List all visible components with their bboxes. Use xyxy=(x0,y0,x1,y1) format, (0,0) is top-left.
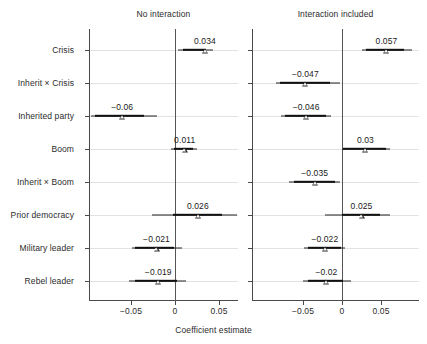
y-axis-label-inherit-crisis: Inherit × Crisis xyxy=(18,78,74,88)
gridline xyxy=(89,50,238,51)
y-axis-tick xyxy=(248,149,252,150)
point-estimate-marker xyxy=(154,247,160,252)
plot-area-interaction-included: 0.057−0.047−0.0460.03−0.0350.025−0.022−0… xyxy=(252,29,419,301)
panel-no-interaction: 0.034−0.060.0110.026−0.021−0.019 xyxy=(89,29,238,301)
gridline xyxy=(252,149,419,150)
point-estimate-value-label: −0.021 xyxy=(143,234,170,244)
point-estimate-marker xyxy=(202,49,208,54)
y-axis-tick xyxy=(248,281,252,282)
zero-reference-line xyxy=(175,29,176,301)
point-estimate-marker xyxy=(119,115,125,120)
y-axis-tick xyxy=(248,182,252,183)
x-axis-tick xyxy=(381,301,382,305)
y-axis-labels: CrisisInherit × CrisisInherited partyBoo… xyxy=(0,0,81,344)
x-axis-tick-label: 0.05 xyxy=(211,306,228,316)
point-estimate-value-label: 0.025 xyxy=(351,201,373,211)
y-axis-label-prior-democracy: Prior democracy xyxy=(11,210,74,220)
point-estimate-value-label: −0.022 xyxy=(311,234,338,244)
y-axis-tick xyxy=(85,83,89,84)
x-axis-spine xyxy=(89,300,238,301)
y-axis-tick xyxy=(248,83,252,84)
y-axis-tick xyxy=(85,182,89,183)
point-estimate-marker xyxy=(362,148,368,153)
x-axis-spine xyxy=(252,300,419,301)
point-estimate-value-label: −0.035 xyxy=(301,168,328,178)
zero-reference-line xyxy=(342,29,343,301)
point-estimate-marker xyxy=(312,181,318,186)
point-estimate-value-label: 0.034 xyxy=(194,36,216,46)
y-axis-tick xyxy=(248,116,252,117)
x-axis-tick-label: −0.05 xyxy=(292,306,314,316)
point-estimate-value-label: −0.06 xyxy=(111,102,133,112)
x-axis-tick xyxy=(219,301,220,305)
x-axis-tick-label: 0 xyxy=(173,306,178,316)
point-estimate-value-label: 0.026 xyxy=(187,201,209,211)
y-axis-tick xyxy=(85,116,89,117)
point-estimate-marker xyxy=(182,148,188,153)
y-axis-spine xyxy=(252,29,253,301)
x-axis-tick-label: −0.05 xyxy=(120,306,142,316)
y-axis-tick xyxy=(85,215,89,216)
x-axis-tick xyxy=(175,301,176,305)
y-axis-label-inherited-party: Inherited party xyxy=(18,111,74,121)
panel-title-interaction-included: Interaction included xyxy=(252,9,419,19)
y-axis-label-boom: Boom xyxy=(51,144,74,154)
point-estimate-value-label: −0.02 xyxy=(315,267,337,277)
point-estimate-value-label: 0.011 xyxy=(174,135,195,145)
point-estimate-value-label: −0.047 xyxy=(292,69,319,79)
y-axis-tick xyxy=(248,215,252,216)
panel-interaction-included: 0.057−0.047−0.0460.03−0.0350.025−0.022−0… xyxy=(252,29,419,301)
x-axis-title: Coefficient estimate xyxy=(0,325,427,335)
y-axis-tick xyxy=(248,50,252,51)
point-estimate-marker xyxy=(302,82,308,87)
point-estimate-value-label: 0.03 xyxy=(357,135,374,145)
coefficient-plot-figure: No interaction Interaction included Cris… xyxy=(0,0,427,344)
plot-area-no-interaction: 0.034−0.060.0110.026−0.021−0.019 xyxy=(89,29,238,301)
y-axis-label-rebel-leader: Rebel leader xyxy=(25,276,74,286)
y-axis-label-crisis: Crisis xyxy=(52,45,74,55)
x-axis-tick-label: 0 xyxy=(340,306,345,316)
y-axis-tick xyxy=(85,281,89,282)
y-axis-tick xyxy=(85,50,89,51)
point-estimate-value-label: 0.057 xyxy=(376,36,398,46)
x-axis-tick xyxy=(303,301,304,305)
panel-title-no-interaction: No interaction xyxy=(89,9,238,19)
y-axis-label-inherit-boom: Inherit × Boom xyxy=(17,177,74,187)
point-estimate-marker xyxy=(155,280,161,285)
point-estimate-marker xyxy=(303,115,309,120)
point-estimate-marker xyxy=(383,49,389,54)
gridline xyxy=(89,83,238,84)
gridline xyxy=(252,116,419,117)
point-estimate-marker xyxy=(323,280,329,285)
gridline xyxy=(89,149,238,150)
x-axis-tick xyxy=(342,301,343,305)
gridline xyxy=(89,182,238,183)
y-axis-label-military-leader: Military leader xyxy=(20,243,74,253)
point-estimate-marker xyxy=(195,214,201,219)
y-axis-tick xyxy=(85,248,89,249)
y-axis-tick xyxy=(85,149,89,150)
point-estimate-marker xyxy=(359,214,365,219)
y-axis-tick xyxy=(248,248,252,249)
y-axis-spine xyxy=(89,29,90,301)
x-axis-tick xyxy=(131,301,132,305)
x-axis-tick-label: 0.05 xyxy=(373,306,390,316)
point-estimate-value-label: −0.046 xyxy=(293,102,320,112)
point-estimate-value-label: −0.019 xyxy=(145,267,172,277)
point-estimate-marker xyxy=(322,247,328,252)
